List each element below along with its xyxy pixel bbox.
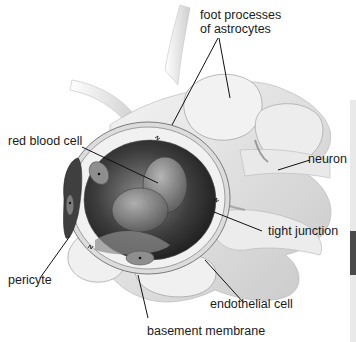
label-basement-membrane: basement membrane — [147, 324, 265, 338]
label-foot-processes-line2: of astrocytes — [200, 22, 281, 36]
label-red-blood-cell: red blood cell — [8, 134, 82, 148]
label-pericyte: pericyte — [8, 273, 52, 287]
page-edge-strip — [350, 100, 356, 342]
label-foot-processes-line1: foot processes — [200, 8, 281, 22]
bbb-diagram: foot processes of astrocytes red blood c… — [0, 0, 356, 342]
diagram-illustration — [0, 0, 356, 342]
capillary — [66, 122, 230, 274]
label-endothelial-cell: endothelial cell — [210, 297, 293, 311]
page-edge-tab — [350, 231, 356, 275]
label-neuron: neuron — [308, 152, 347, 166]
label-foot-processes: foot processes of astrocytes — [200, 8, 281, 36]
label-tight-junction: tight junction — [268, 224, 338, 238]
